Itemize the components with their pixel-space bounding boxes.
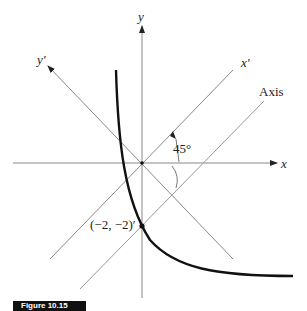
x-axis-label: x bbox=[281, 157, 287, 170]
angle-label: 45° bbox=[173, 142, 191, 155]
axis-label: Axis bbox=[259, 85, 284, 98]
hyperbola-axis-line bbox=[80, 101, 264, 289]
vertex-point bbox=[139, 223, 144, 228]
y-axis-label: y bbox=[138, 10, 144, 23]
hyperbola-curve bbox=[116, 70, 293, 276]
y-prime-label: y′ bbox=[37, 53, 46, 66]
x-prime-label: x′ bbox=[241, 56, 250, 69]
point-label: (−2, −2)′ bbox=[90, 218, 136, 231]
angle-arrow-icon bbox=[170, 131, 176, 139]
figure-caption: Figure 10.15 bbox=[13, 301, 86, 311]
origin-point bbox=[140, 161, 144, 165]
angle-arc bbox=[172, 166, 177, 188]
